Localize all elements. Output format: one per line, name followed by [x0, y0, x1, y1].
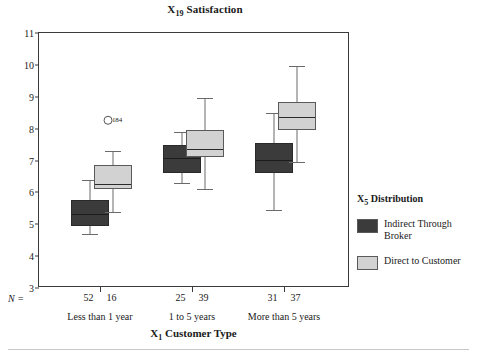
legend-item: Direct to Customer — [357, 255, 473, 270]
whisker-upper-line — [273, 113, 274, 143]
x-axis-tick-mark — [192, 287, 193, 292]
box-plot-series-container — [39, 33, 348, 286]
legend-entries: Indirect Through BrokerDirect to Custome… — [357, 218, 473, 270]
x-axis-category-label: Less than 1 year — [67, 311, 132, 322]
n-value-label: 52 — [84, 292, 94, 303]
x-axis-tick-mark — [100, 287, 101, 292]
whisker-lower-line — [204, 157, 205, 189]
chart-title: X19 Satisfaction — [120, 3, 290, 18]
whisker-lower-line — [112, 189, 113, 211]
legend-title-subscript: 5 — [364, 198, 368, 207]
n-value-label: 37 — [291, 292, 301, 303]
n-value-label: 25 — [176, 292, 186, 303]
whisker-lower-cap — [289, 162, 305, 163]
legend-title-text: Distribution — [371, 193, 423, 204]
legend-item: Indirect Through Broker — [357, 218, 473, 241]
median-line — [279, 117, 315, 118]
legend-color-swatch — [357, 219, 378, 233]
legend-item-label: Direct to Customer — [384, 255, 461, 267]
figure-box-plot: X19 Satisfaction 11109876543 184 N = 521… — [0, 0, 477, 358]
chart-title-text: Satisfaction — [186, 3, 242, 15]
outlier-label: 184 — [112, 116, 122, 124]
box-plot-box — [186, 33, 224, 288]
whisker-lower-line — [296, 130, 297, 162]
plot-area: 11109876543 184 — [38, 32, 349, 287]
x-axis-title-text: Customer Type — [165, 327, 237, 339]
n-value-label: 39 — [199, 292, 209, 303]
n-value-label: 16 — [107, 292, 117, 303]
whisker-upper-cap — [197, 98, 213, 99]
whisker-upper-line — [181, 132, 182, 145]
whisker-lower-line — [273, 173, 274, 210]
whisker-lower-cap — [105, 212, 121, 213]
median-line — [95, 184, 131, 185]
x-axis-title: X1 Customer Type — [38, 327, 349, 342]
legend: X5 Distribution Indirect Through BrokerD… — [357, 193, 473, 284]
chart-title-subscript: 19 — [175, 9, 183, 18]
box-plot-box — [94, 33, 132, 288]
whisker-upper-line — [204, 98, 205, 130]
x-axis-tick-mark — [284, 287, 285, 292]
x-axis-category-label: 1 to 5 years — [169, 311, 215, 322]
whisker-upper-cap — [105, 151, 121, 152]
open-circle-icon — [103, 115, 112, 124]
x-axis-category-label: More than 5 years — [248, 311, 320, 322]
whisker-lower-line — [89, 226, 90, 234]
whisker-lower-line — [181, 173, 182, 183]
legend-color-swatch — [357, 256, 378, 270]
n-value-label: 31 — [268, 292, 278, 303]
legend-title: X5 Distribution — [357, 193, 473, 207]
whisker-lower-cap — [197, 189, 213, 190]
whisker-upper-line — [296, 66, 297, 101]
median-line — [187, 149, 223, 150]
box-iqr-rect — [278, 102, 316, 131]
x-axis-title-variable: X — [150, 327, 158, 339]
x-axis-title-subscript: 1 — [158, 333, 162, 342]
whisker-upper-line — [112, 151, 113, 165]
box-iqr-rect — [186, 130, 224, 157]
legend-item-label: Indirect Through Broker — [384, 218, 468, 241]
y-axis-tick-mark — [35, 288, 39, 289]
outlier-marker: 184 — [103, 114, 122, 124]
whisker-upper-cap — [289, 66, 305, 67]
n-row-label: N = — [8, 293, 24, 304]
page-divider-rule — [8, 349, 469, 350]
box-plot-box — [278, 33, 316, 288]
box-iqr-rect — [94, 165, 132, 189]
whisker-upper-line — [89, 180, 90, 201]
